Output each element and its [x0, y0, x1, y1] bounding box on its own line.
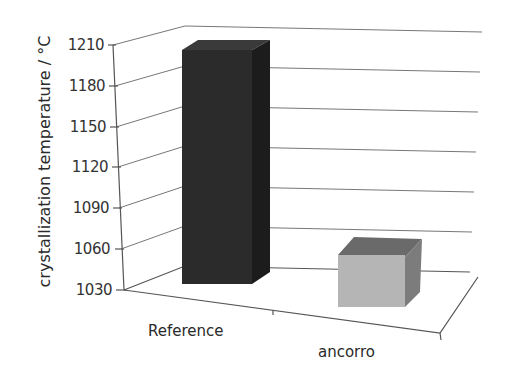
y-tick-1210: 1210: [44, 36, 104, 54]
y-tick-1120: 1120: [48, 158, 108, 176]
y-tick-1030: 1030: [52, 281, 112, 299]
bar-reference: [182, 40, 270, 284]
bar-ancorro: [338, 237, 422, 307]
x-category-reference: Reference: [148, 322, 224, 340]
chart-canvas: [0, 0, 505, 376]
x-category-ancorro: ancorro: [318, 343, 375, 361]
y-tick-1180: 1180: [45, 77, 105, 95]
y-tick-1150: 1150: [46, 118, 106, 136]
bar-chart-3d: crystallization temperature / °C 1210 11…: [0, 0, 505, 376]
y-tick-1060: 1060: [50, 240, 110, 258]
y-tick-1090: 1090: [49, 199, 109, 217]
gridlines: [113, 26, 482, 249]
y-axis: [108, 45, 126, 290]
